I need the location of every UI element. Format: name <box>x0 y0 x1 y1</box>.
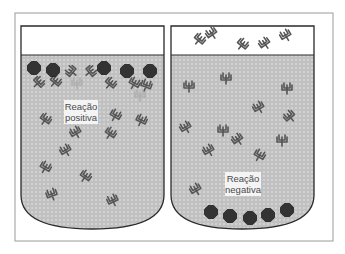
antigen-particle <box>47 64 60 77</box>
antigen-particle <box>121 65 134 78</box>
antigen-particle <box>244 212 257 225</box>
label-positive-line2: positiva <box>65 112 98 123</box>
antigen-particle <box>144 65 157 78</box>
antigen-particle <box>224 210 237 223</box>
label-negative-line1: Reação <box>227 173 260 184</box>
antibody-icon <box>235 37 250 52</box>
label-negative-line2: negativa <box>225 184 262 195</box>
antibody-icon <box>279 28 293 43</box>
agglutination-diagram: Reação positiva Reação negativa <box>0 0 345 254</box>
antibody-icon <box>204 26 219 41</box>
antigen-particle <box>98 62 111 75</box>
container-negative: Reação negativa <box>171 26 314 229</box>
antigen-particle <box>262 209 275 222</box>
antigen-particle <box>28 62 41 75</box>
antigen-particle <box>205 206 218 219</box>
antibody-icon <box>257 36 272 51</box>
container-positive: Reação positiva <box>21 26 164 229</box>
antigen-particle <box>281 204 294 217</box>
label-positive-line1: Reação <box>65 101 98 112</box>
antibody-icon <box>192 32 207 47</box>
